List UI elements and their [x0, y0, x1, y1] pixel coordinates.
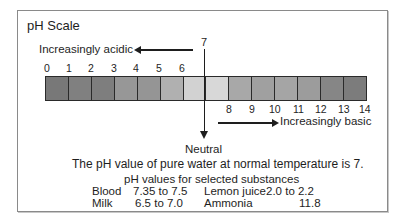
basic-label: Increasingly basic	[280, 115, 371, 127]
basic-arrow-shaft	[218, 122, 273, 124]
substance-name-ammonia: Ammonia	[204, 197, 253, 209]
substance-name-milk: Milk	[92, 197, 112, 209]
segment-8	[229, 77, 252, 100]
segment-3	[115, 77, 138, 100]
right-arrow-icon	[272, 119, 279, 127]
substance-name-lemon: Lemon juice	[204, 185, 266, 197]
tick-0: 0	[44, 62, 50, 74]
tick-10: 10	[269, 103, 281, 115]
ph-color-bar	[45, 76, 367, 101]
neutral-line	[204, 49, 206, 134]
diagram-title: pH Scale	[27, 18, 80, 33]
tick-5: 5	[156, 62, 162, 74]
tick-11: 11	[293, 103, 304, 115]
substance-range-milk: 6.5 to 7.0	[135, 197, 183, 209]
segment-13	[344, 77, 366, 100]
tick-9: 9	[249, 103, 255, 115]
neutral-value: 7	[201, 36, 207, 48]
acidic-arrow-shaft	[137, 49, 193, 51]
tick-3: 3	[111, 62, 117, 74]
acidic-label: Increasingly acidic	[39, 43, 133, 55]
substance-name-blood: Blood	[92, 185, 121, 197]
segment-11	[298, 77, 321, 100]
segment-2	[92, 77, 115, 100]
tick-1: 1	[66, 62, 72, 74]
segment-7	[206, 77, 229, 100]
tick-2: 2	[88, 62, 94, 74]
down-arrow-icon	[200, 131, 208, 139]
tick-14: 14	[359, 103, 371, 115]
segment-10	[275, 77, 298, 100]
tick-8: 8	[226, 103, 232, 115]
segment-12	[321, 77, 344, 100]
tick-4: 4	[133, 62, 139, 74]
substance-range-lemon: 2.0 to 2.2	[266, 185, 314, 197]
left-arrow-icon	[134, 46, 141, 54]
tick-12: 12	[315, 103, 327, 115]
segment-4	[138, 77, 161, 100]
substances-title: pH values for selected substances	[124, 173, 299, 185]
neutral-label: Neutral	[185, 143, 222, 155]
water-note: The pH value of pure water at normal tem…	[72, 157, 363, 171]
segment-5	[161, 77, 184, 100]
substance-range-ammonia: 11.8	[299, 197, 321, 209]
tick-6: 6	[179, 62, 185, 74]
segment-0	[46, 77, 69, 100]
tick-13: 13	[338, 103, 350, 115]
segment-9	[252, 77, 275, 100]
segment-1	[69, 77, 92, 100]
substance-range-blood: 7.35 to 7.5	[133, 185, 187, 197]
